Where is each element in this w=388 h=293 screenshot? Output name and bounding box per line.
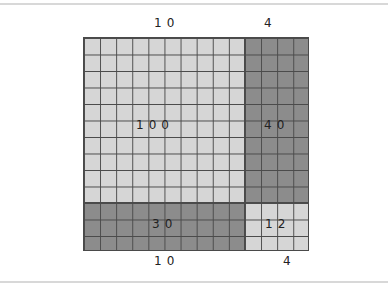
value-bottom-right: 12 <box>265 217 290 231</box>
bottom-rule <box>0 281 388 283</box>
value-top-left: 100 <box>136 118 174 132</box>
top-label-tens: 10 <box>154 16 179 30</box>
bottom-label-ones: 4 <box>283 254 296 268</box>
value-top-right: 40 <box>264 118 289 132</box>
bottom-label-tens: 10 <box>154 254 179 268</box>
top-label-ones: 4 <box>264 16 277 30</box>
value-bottom-left: 30 <box>152 217 177 231</box>
top-rule <box>0 3 388 5</box>
